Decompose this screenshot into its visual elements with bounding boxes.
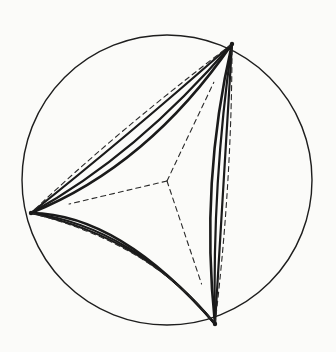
figure-canvas	[0, 0, 336, 352]
hyperbolic-disk-figure	[0, 0, 336, 352]
ideal-left-vertex	[29, 211, 33, 215]
figure-background	[0, 0, 336, 352]
ideal-top-vertex	[230, 42, 234, 46]
ideal-bottom-vertex	[213, 322, 217, 326]
